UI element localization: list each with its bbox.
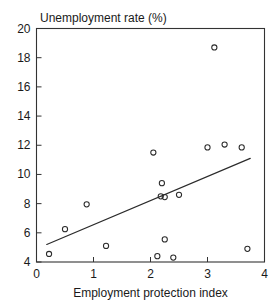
data-point-marker: [205, 145, 210, 150]
y-axis-ticks: 468101214161820: [17, 22, 41, 270]
y-tick-label: 6: [24, 226, 31, 240]
data-point-marker: [162, 237, 167, 242]
x-tick-label: 2: [147, 267, 154, 281]
data-points: [46, 45, 250, 260]
x-tick-label: 1: [90, 267, 97, 281]
data-point-marker: [212, 45, 217, 50]
data-point-marker: [239, 145, 244, 150]
data-point-marker: [103, 243, 108, 248]
data-point-marker: [176, 192, 181, 197]
data-point-marker: [171, 255, 176, 260]
data-point-marker: [46, 251, 51, 256]
regression-line-segment: [47, 158, 250, 244]
regression-line: [47, 158, 250, 244]
data-point-marker: [245, 246, 250, 251]
data-point-marker: [84, 202, 89, 207]
y-tick-label: 10: [17, 167, 31, 181]
y-tick-label: 12: [17, 138, 31, 152]
x-axis-title: Employment protection index: [73, 286, 228, 300]
plot-frame: [37, 29, 265, 263]
x-tick-label: 4: [261, 267, 268, 281]
data-point-marker: [155, 254, 160, 259]
y-tick-label: 14: [17, 109, 31, 123]
scatter-chart-figure: Unemployment rate (%) Employment protect…: [0, 0, 275, 307]
chart-canvas: Unemployment rate (%) Employment protect…: [0, 0, 275, 307]
x-tick-label: 3: [204, 267, 211, 281]
x-tick-label: 0: [33, 267, 40, 281]
x-axis-ticks: 01234: [33, 257, 268, 281]
y-tick-label: 8: [24, 197, 31, 211]
data-point-marker: [62, 227, 67, 232]
data-point-marker: [222, 142, 227, 147]
data-point-marker: [151, 150, 156, 155]
y-tick-label: 18: [17, 51, 31, 65]
data-point-marker: [159, 181, 164, 186]
y-tick-label: 16: [17, 80, 31, 94]
y-tick-label: 20: [17, 22, 31, 36]
y-tick-label: 4: [24, 255, 31, 269]
chart-title: Unemployment rate (%): [40, 11, 167, 25]
